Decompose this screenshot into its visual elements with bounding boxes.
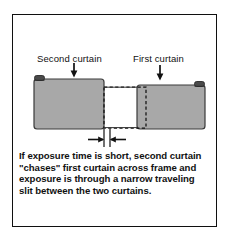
caption-line-3: exposure is through a narrow traveling: [19, 173, 211, 185]
caption-line-4: slit between the two curtains.: [19, 185, 211, 197]
caption-line-1: If exposure time is short, second curtai…: [19, 150, 211, 162]
figure-root: Second curtain First curtain: [0, 0, 231, 241]
caption-line-2: "chases" first curtain across frame and: [19, 162, 211, 174]
caption-text: If exposure time is short, second curtai…: [19, 150, 211, 196]
